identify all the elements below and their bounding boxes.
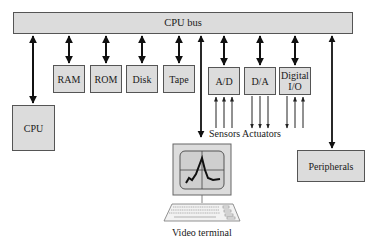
video-terminal-label: Video terminal xyxy=(172,227,232,238)
peripherals-box: Peripherals xyxy=(297,150,365,182)
cpu-bus-label: CPU bus xyxy=(164,17,202,28)
disk-box: Disk xyxy=(126,65,158,93)
cpu-box: CPU xyxy=(12,105,55,151)
io-bus-links xyxy=(224,36,295,65)
da-converter-box: D/A xyxy=(244,67,276,95)
memory-bus-links xyxy=(69,36,179,63)
ram-label: RAM xyxy=(58,74,81,85)
ram-box: RAM xyxy=(53,65,85,93)
da-label: D/A xyxy=(251,76,268,87)
sensors-actuators-label: Sensors Actuators xyxy=(209,128,281,139)
video-terminal-icon xyxy=(164,144,240,221)
rom-label: ROM xyxy=(95,74,118,85)
cpu-bus: CPU bus xyxy=(13,12,353,34)
actuator-output-arrows xyxy=(252,96,268,128)
tape-label: Tape xyxy=(169,74,188,85)
digital-io-box: Digital I/O xyxy=(279,67,311,95)
computer-system-diagram: CPU bus RAM ROM Disk Tape A/D D/A Digita… xyxy=(0,0,377,248)
cpu-label: CPU xyxy=(24,123,43,134)
ad-converter-box: A/D xyxy=(208,67,240,95)
ad-label: A/D xyxy=(215,76,232,87)
digital-io-arrows xyxy=(287,96,303,128)
peripherals-label: Peripherals xyxy=(309,161,354,172)
digital-io-label: Digital I/O xyxy=(281,70,309,92)
rom-box: ROM xyxy=(90,65,122,93)
disk-label: Disk xyxy=(133,74,152,85)
sensor-input-arrows xyxy=(216,97,232,128)
connection-wires xyxy=(0,0,377,248)
tape-box: Tape xyxy=(163,65,195,93)
